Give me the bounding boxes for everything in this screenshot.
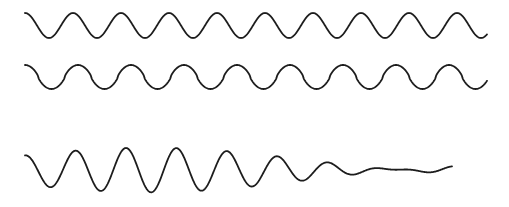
wave-2-sine-path	[25, 65, 487, 89]
wave-1-sine-path	[25, 13, 487, 38]
waveform-canvas	[0, 0, 509, 207]
wave-3-beat-sum-path	[25, 148, 452, 192]
waveform-figure	[0, 0, 509, 207]
